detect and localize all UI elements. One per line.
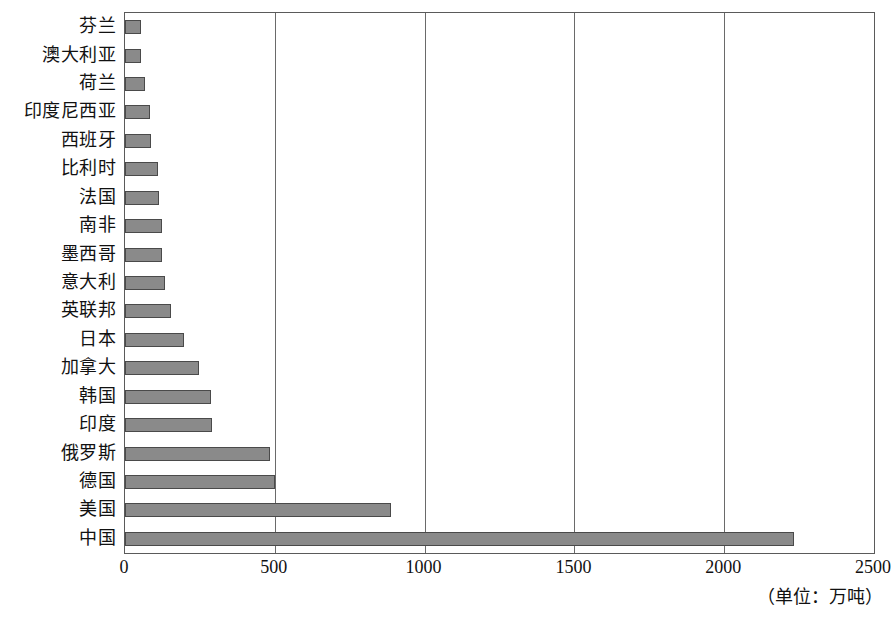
bar <box>125 276 165 290</box>
category-tick-label: 德国 <box>79 472 116 490</box>
gridline <box>724 13 725 553</box>
category-tick-label: 印度尼西亚 <box>24 102 117 120</box>
bar <box>125 475 275 489</box>
category-tick-label: 英联邦 <box>61 301 117 319</box>
bar <box>125 134 151 148</box>
value-axis: 05001000150020002500 <box>0 556 891 584</box>
bar <box>125 447 270 461</box>
category-tick-label: 澳大利亚 <box>42 46 116 64</box>
category-tick-label: 西班牙 <box>61 131 117 149</box>
bar <box>125 503 391 517</box>
category-tick-label: 俄罗斯 <box>61 444 117 462</box>
category-tick-label: 法国 <box>79 188 116 206</box>
bar <box>125 248 162 262</box>
category-tick-label: 日本 <box>79 330 116 348</box>
bar <box>125 20 141 34</box>
category-tick-label: 芬兰 <box>79 17 116 35</box>
gridline <box>275 13 276 553</box>
value-tick-label: 2500 <box>855 556 891 578</box>
bar <box>125 532 794 546</box>
category-tick-label: 墨西哥 <box>61 245 117 263</box>
category-tick-label: 中国 <box>79 529 116 547</box>
category-tick-label: 韩国 <box>79 387 116 405</box>
gridline <box>574 13 575 553</box>
bar <box>125 77 145 91</box>
value-tick-label: 500 <box>260 556 287 578</box>
value-tick-label: 0 <box>120 556 129 578</box>
value-tick-label: 2000 <box>705 556 741 578</box>
bar <box>125 191 159 205</box>
bar <box>125 49 141 63</box>
value-tick-label: 1000 <box>406 556 442 578</box>
category-tick-label: 荷兰 <box>79 74 116 92</box>
bar <box>125 390 211 404</box>
value-tick-label: 1500 <box>555 556 591 578</box>
gridline <box>425 13 426 553</box>
bar <box>125 162 158 176</box>
category-tick-label: 美国 <box>79 500 116 518</box>
bar <box>125 219 162 233</box>
category-tick-label: 南非 <box>79 216 116 234</box>
category-tick-label: 意大利 <box>61 273 117 291</box>
bar <box>125 418 212 432</box>
category-tick-label: 加拿大 <box>61 358 117 376</box>
unit-note: （单位：万吨） <box>757 586 883 608</box>
bar <box>125 361 199 375</box>
category-tick-label: 比利时 <box>61 159 117 177</box>
bar <box>125 333 184 347</box>
category-axis: 芬兰澳大利亚荷兰印度尼西亚西班牙比利时法国南非墨西哥意大利英联邦日本加拿大韩国印… <box>0 12 120 552</box>
bar-chart: 芬兰澳大利亚荷兰印度尼西亚西班牙比利时法国南非墨西哥意大利英联邦日本加拿大韩国印… <box>0 0 891 619</box>
category-tick-label: 印度 <box>79 415 116 433</box>
bar <box>125 304 171 318</box>
bar <box>125 105 150 119</box>
plot-area <box>124 12 875 554</box>
